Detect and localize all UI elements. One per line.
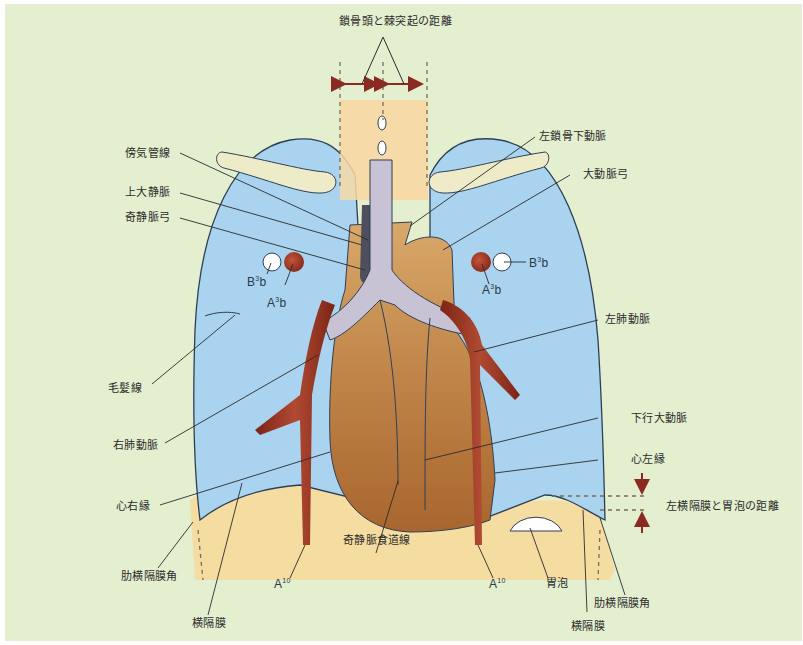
label-right-b3b: B3b bbox=[247, 275, 267, 288]
label-paratracheal-line: 傍気管線 bbox=[125, 148, 170, 159]
title-pointer bbox=[362, 37, 404, 84]
label-left-heart-border: 心左縁 bbox=[631, 454, 665, 465]
spinous-process-2 bbox=[378, 141, 386, 155]
label-right-a3b: A3b bbox=[267, 296, 287, 309]
left-a3b-artery bbox=[471, 252, 491, 272]
label-left-costophrenic-angle: 肋横隔膜角 bbox=[594, 598, 651, 609]
label-azygos-arch: 奇静脈弓 bbox=[125, 212, 170, 223]
label-aortic-arch: 大動脈弓 bbox=[583, 169, 628, 180]
label-left-subclavian-artery: 左鎖骨下動脈 bbox=[539, 131, 607, 142]
label-right-costophrenic-angle: 肋横隔膜角 bbox=[121, 571, 178, 582]
chest-xray-diagram: 鎖骨頭と棘突起の距離 傍気管線 上大静脈 奇静脈弓 左鎖骨下動脈 大動脈弓 B3… bbox=[5, 4, 802, 641]
label-minor-fissure: 毛髪線 bbox=[108, 383, 142, 394]
label-left-a10: A10 bbox=[489, 577, 506, 590]
label-descending-aorta: 下行大動脈 bbox=[631, 413, 688, 424]
label-left-b3b: B3b bbox=[529, 256, 549, 269]
label-right-a10: A10 bbox=[274, 577, 291, 590]
label-left-pulmonary-artery: 左肺動脈 bbox=[605, 314, 650, 325]
label-azygoesophageal-line: 奇静脈食道線 bbox=[343, 535, 411, 546]
title-clavicle-spine-distance: 鎖骨頭と棘突起の距離 bbox=[339, 16, 452, 27]
right-b3b-bronchus bbox=[263, 253, 281, 271]
label-left-diaphragm: 横隔膜 bbox=[571, 621, 605, 632]
label-svc: 上大静脈 bbox=[125, 187, 170, 198]
spinous-process-1 bbox=[378, 116, 386, 130]
label-left-a3b: A3b bbox=[482, 283, 502, 296]
label-diaphragm-gastric-distance: 左横隔膜と胃泡の距離 bbox=[666, 501, 779, 512]
label-right-diaphragm: 横隔膜 bbox=[192, 618, 226, 629]
label-right-heart-border: 心右縁 bbox=[116, 501, 150, 512]
label-gastric-bubble: 胃泡 bbox=[546, 578, 569, 589]
right-a3b-artery bbox=[284, 252, 304, 272]
label-right-pulmonary-artery: 右肺動脈 bbox=[113, 440, 158, 451]
